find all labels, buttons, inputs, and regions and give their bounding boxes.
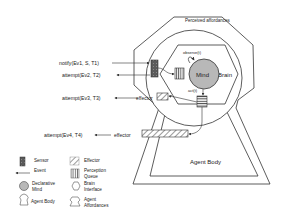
agent-affordances-icon — [70, 197, 80, 206]
legend-mind-label-1: Declarative — [32, 181, 55, 186]
declarative-mind-icon — [20, 182, 29, 191]
act-label: act(t) — [188, 88, 198, 93]
perception-queue-icon — [71, 169, 79, 178]
agent-architecture-diagram: Perceived affordances Agent Body Brain M… — [0, 0, 282, 224]
legend-mind-label-2: Mind — [32, 187, 42, 192]
legend-perception-label-1: Perception — [84, 168, 106, 173]
legend-event-label: Event — [34, 168, 46, 173]
brain-interface-icon — [72, 182, 80, 190]
legend: Sensor Effector Event Perception Queue D… — [16, 157, 109, 208]
effector-body — [142, 130, 188, 137]
event-attempt-ev4-label: attempt(Ev4, T4) — [44, 132, 83, 138]
legend-agent-body-label: Agent Body — [31, 199, 55, 204]
effector-icon — [70, 157, 79, 165]
brain-label: Brain — [218, 72, 232, 78]
agent-body-icon — [20, 194, 28, 205]
legend-sensor-label: Sensor — [34, 158, 49, 163]
observe-label: observe(t) — [183, 50, 202, 55]
legend-perception-label-2: Queue — [84, 174, 98, 179]
legend-effector-label: Effector — [84, 158, 100, 163]
action-queue — [197, 96, 207, 107]
legend-affordances-label-1: Agent — [84, 197, 97, 202]
mind-label: Mind — [196, 72, 209, 78]
event-attempt-ev3-label: attempt(Ev3, T3) — [62, 95, 101, 101]
perceived-affordances-label: Perceived affordances — [185, 18, 230, 23]
sensor-icon — [20, 157, 25, 166]
agent-body-label: Agent Body — [190, 159, 221, 165]
effector-inner — [157, 93, 168, 100]
legend-brain-label-1: Brain — [84, 181, 95, 186]
effector-label-1: effector — [136, 95, 153, 101]
legend-brain-label-2: Interface — [84, 187, 102, 192]
sensor — [151, 60, 158, 77]
effector-label-2: effector — [114, 132, 131, 138]
legend-affordances-label-2: Affordances — [84, 203, 109, 208]
event-attempt-ev2-label: attempt(Ev2, T2) — [62, 72, 101, 78]
event-notify-label: notify(Ev1, S, T1) — [59, 60, 99, 66]
perception-queue — [175, 68, 184, 79]
